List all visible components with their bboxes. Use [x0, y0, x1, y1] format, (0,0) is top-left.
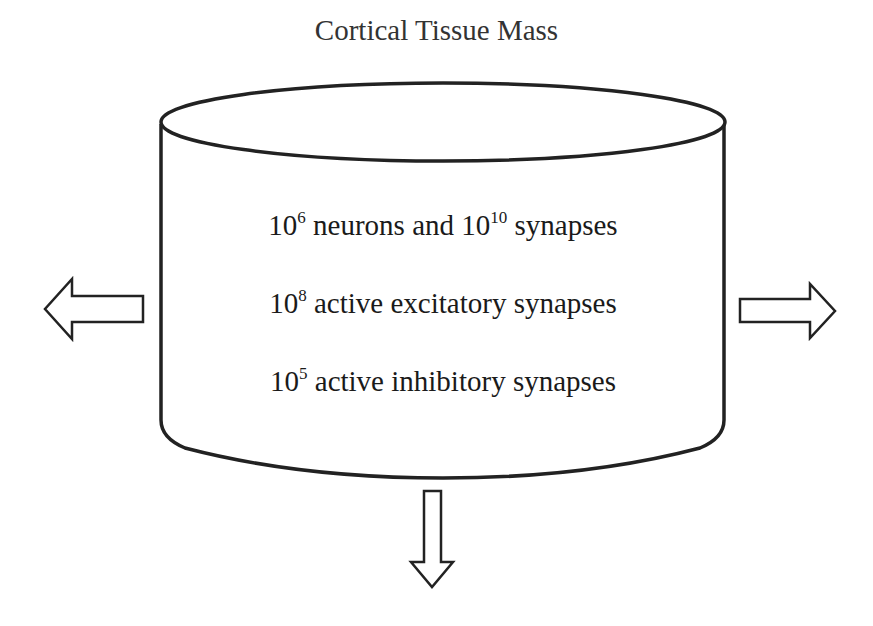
base-number: 10 — [269, 287, 298, 319]
line-text: synapses — [507, 209, 617, 241]
base-number: 10 — [461, 209, 490, 241]
exponent: 8 — [298, 286, 307, 305]
inhibitory-synapses-line: 105 active inhibitory synapses — [160, 365, 726, 398]
neurons-synapses-line: 106 neurons and 1010 synapses — [160, 209, 726, 242]
cortical-tissue-cylinder — [161, 83, 725, 478]
line-text: active inhibitory synapses — [308, 365, 616, 397]
exponent: 10 — [490, 208, 507, 227]
exponent: 6 — [297, 208, 306, 227]
down-arrow-icon — [411, 491, 453, 587]
base-number: 10 — [268, 209, 297, 241]
base-number: 10 — [270, 365, 299, 397]
left-arrow-icon — [45, 279, 143, 339]
excitatory-synapses-line: 108 active excitatory synapses — [160, 287, 726, 320]
exponent: 5 — [299, 364, 308, 383]
right-arrow-icon — [740, 284, 835, 338]
line-text: neurons and — [306, 209, 461, 241]
line-text: active excitatory synapses — [307, 287, 617, 319]
